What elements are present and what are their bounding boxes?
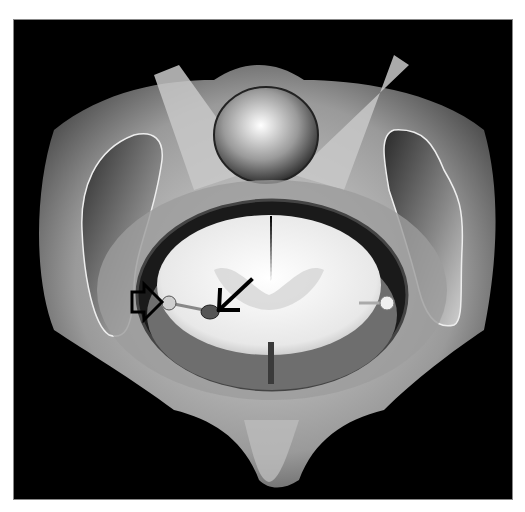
vertebra-illustration [14, 20, 513, 500]
left-root-sleeve [162, 296, 176, 310]
left-rootlet-bulb [201, 305, 219, 319]
spinal-cord [157, 215, 381, 355]
vertebral-body [214, 87, 318, 183]
right-root-sleeve [380, 296, 394, 310]
illustration-frame [13, 19, 513, 500]
posterior-septum [268, 342, 274, 384]
